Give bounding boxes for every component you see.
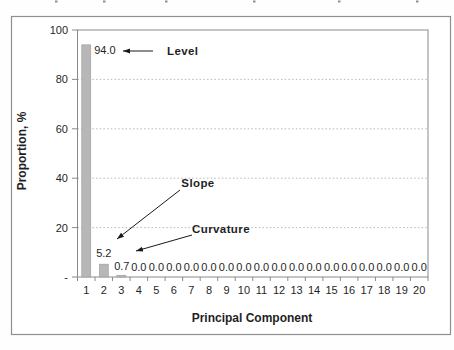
bar-value-label: 0.0 (412, 261, 427, 273)
x-tick-label: 17 (361, 284, 373, 296)
bar-value-label: 0.0 (201, 261, 216, 273)
annotation-label: Slope (181, 177, 214, 189)
bar-value-label: 0.0 (271, 261, 286, 273)
bar-value-label: 0.7 (114, 260, 129, 272)
bar (117, 275, 126, 277)
x-tick-label: 13 (290, 284, 302, 296)
bar-value-label: 0.0 (254, 261, 269, 273)
bar (99, 264, 108, 277)
bar-value-label: 0.0 (184, 261, 199, 273)
x-tick-label: 11 (256, 284, 267, 296)
x-tick-label: 15 (325, 284, 337, 296)
x-axis-title: Principal Component (192, 311, 313, 325)
bar-value-label: 0.0 (166, 261, 181, 273)
x-tick-label: 19 (396, 284, 408, 296)
x-tick-label: 14 (308, 284, 320, 296)
clipped-text-fragment (416, 1, 419, 3)
bar-value-label: 0.0 (324, 261, 339, 273)
x-tick-label: 12 (273, 284, 285, 296)
clipped-text-fragment (165, 1, 168, 3)
scree-plot: 10080604020- 123456789101112131415161718… (0, 0, 454, 350)
annotation-label: Curvature (192, 223, 250, 235)
bar-value-label: 0.0 (306, 261, 321, 273)
bar-value-label: 0.0 (149, 261, 164, 273)
y-tick-label: 80 (56, 73, 68, 85)
bar-value-label: 0.0 (377, 261, 392, 273)
x-tick-label: 16 (343, 284, 355, 296)
x-tick-label: 1 (83, 284, 89, 296)
bar-value-label: 0.0 (289, 261, 304, 273)
y-axis-title: Proportion, % (15, 111, 29, 190)
x-tick-label: 20 (413, 284, 425, 296)
bar-value-label: 0.0 (341, 261, 356, 273)
clipped-text-fragment (253, 1, 256, 3)
x-tick-label: 6 (171, 284, 177, 296)
bar (82, 45, 91, 277)
y-tick-label: 20 (56, 222, 68, 234)
figure: 10080604020- 123456789101112131415161718… (0, 0, 454, 350)
bar-value-label: 0.0 (219, 261, 234, 273)
x-tick-label: 4 (136, 284, 142, 296)
clipped-text-fragment (338, 1, 341, 3)
bar-value-label: 0.0 (394, 261, 409, 273)
clipped-text-fragment (103, 1, 106, 3)
x-tick-label: 2 (101, 284, 107, 296)
bar-value-label: 0.0 (131, 261, 146, 273)
bar-value-label: 5.2 (96, 247, 111, 259)
x-tick-label: 18 (378, 284, 390, 296)
x-tick-label: 5 (153, 284, 159, 296)
x-tick-label: 9 (223, 284, 229, 296)
bar-value-label: 0.0 (236, 261, 251, 273)
y-tick-label: 100 (50, 24, 68, 36)
clipped-text-fragment (55, 1, 58, 3)
x-tick-label: 7 (188, 284, 194, 296)
annotation-label: Level (167, 45, 198, 57)
bar-value-label: 0.0 (359, 261, 374, 273)
y-tick-label: 40 (56, 172, 68, 184)
y-tick-label: 60 (56, 123, 68, 135)
y-tick-label: - (64, 271, 68, 283)
x-tick-label: 8 (206, 284, 212, 296)
x-tick-label: 3 (118, 284, 124, 296)
x-tick-label: 10 (238, 284, 250, 296)
clipped-text-fragments (55, 1, 419, 3)
bar-value-label: 94.0 (94, 44, 115, 56)
